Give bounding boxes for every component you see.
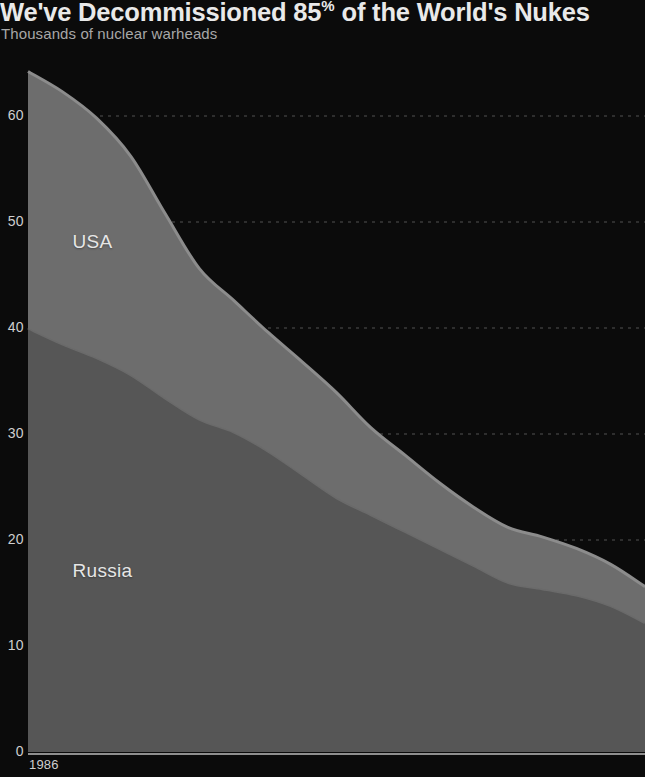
stacked-area-chart [0, 0, 645, 777]
x-tick-label-1986: 1986 [29, 757, 59, 772]
y-tick-label-10: 10 [0, 637, 24, 653]
y-tick-label-60: 60 [0, 107, 24, 123]
series-label-usa: USA [73, 231, 113, 253]
y-tick-label-20: 20 [0, 531, 24, 547]
y-tick-label-0: 0 [0, 743, 24, 759]
chart-canvas: We've Decommissioned 85% of the World's … [0, 0, 645, 777]
y-tick-label-40: 40 [0, 319, 24, 335]
y-tick-label-50: 50 [0, 213, 24, 229]
series-label-russia: Russia [73, 560, 133, 582]
y-tick-label-30: 30 [0, 425, 24, 441]
area-series-group [28, 71, 645, 752]
x-axis-line [28, 753, 645, 755]
